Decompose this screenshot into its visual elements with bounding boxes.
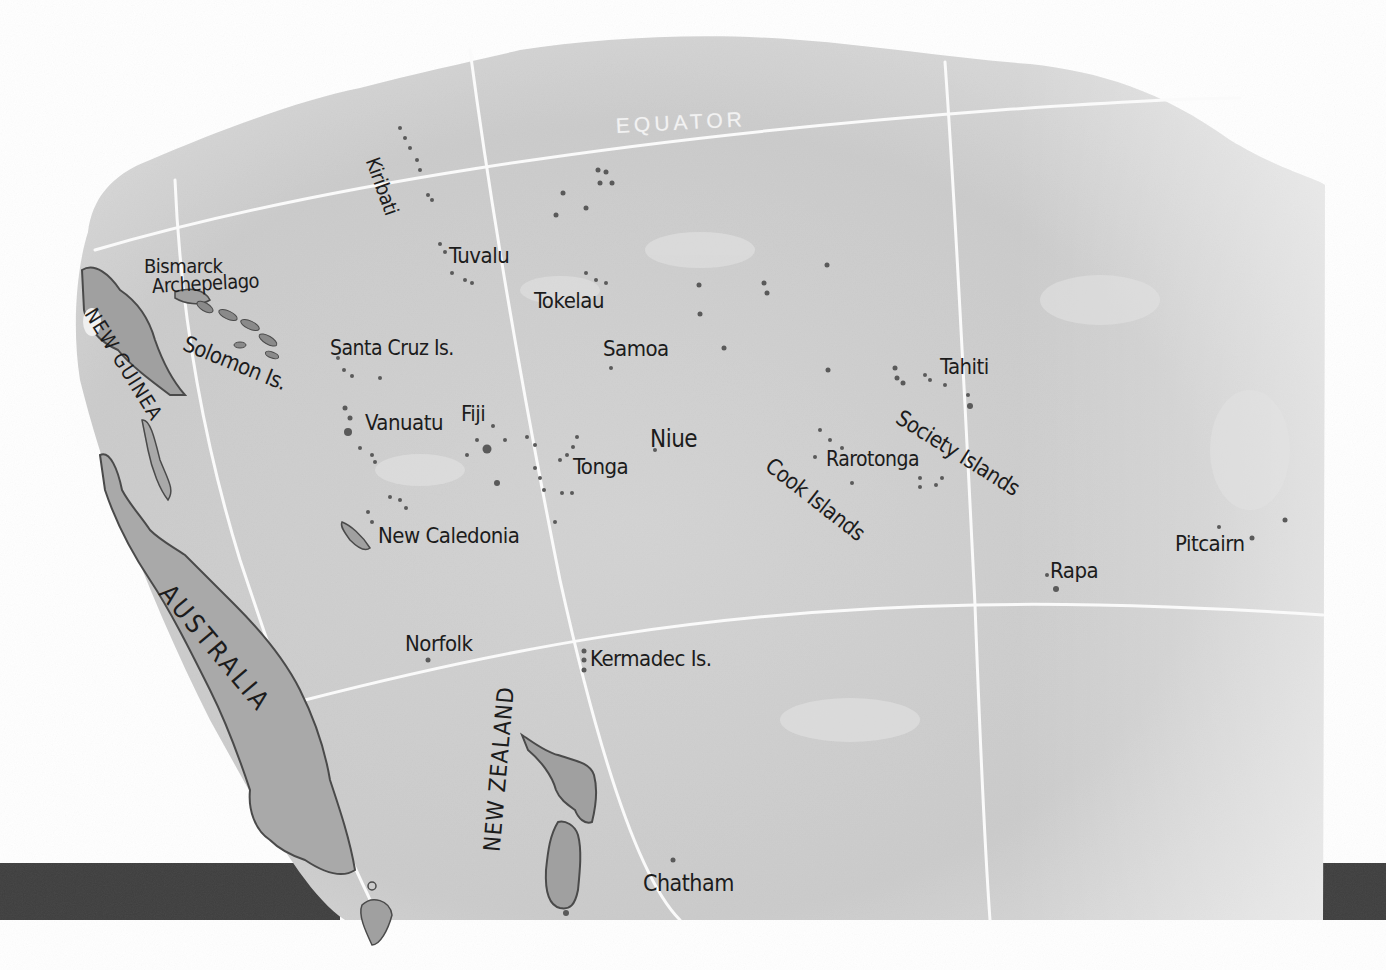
label-bismarck-2: Archepelago — [151, 270, 259, 296]
label-norfolk: Norfolk — [405, 633, 473, 655]
label-fiji: Fiji — [461, 403, 485, 425]
label-vanuatu: Vanuatu — [365, 412, 443, 434]
label-kermadec-islands: Kermadec Is. — [590, 648, 712, 670]
label-rapa: Rapa — [1050, 560, 1098, 582]
label-tonga: Tonga — [573, 456, 628, 478]
label-rarotonga: Rarotonga — [826, 449, 919, 470]
label-santa-cruz: Santa Cruz Is. — [330, 338, 454, 359]
pacific-map — [0, 0, 1386, 970]
label-pitcairn: Pitcairn — [1175, 533, 1245, 555]
label-chatham: Chatham — [643, 872, 734, 895]
label-tuvalu: Tuvalu — [449, 245, 509, 267]
label-niue: Niue — [650, 427, 697, 451]
label-new-caledonia: New Caledonia — [378, 525, 519, 547]
label-tahiti: Tahiti — [940, 356, 989, 378]
label-tokelau: Tokelau — [534, 290, 604, 312]
label-samoa: Samoa — [603, 338, 669, 360]
